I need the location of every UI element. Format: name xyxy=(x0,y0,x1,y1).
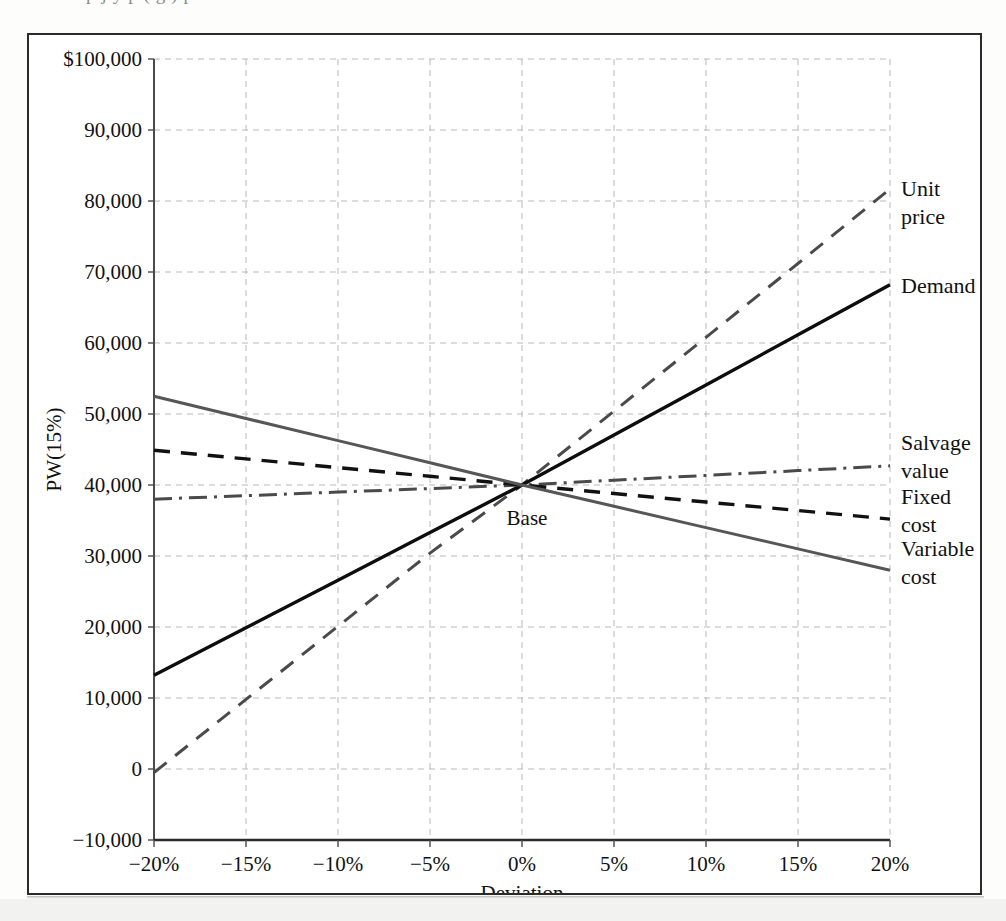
x-axis-tick-label: 15% xyxy=(779,852,818,876)
x-axis-tick-label: 20% xyxy=(871,852,910,876)
series-label-fixed-cost: Fixed xyxy=(901,484,951,509)
y-axis-tick-label: 70,000 xyxy=(84,260,142,284)
x-axis-tick-label: −20% xyxy=(129,852,179,876)
x-axis-tick-label: 5% xyxy=(600,852,628,876)
x-axis-tick-label: −10% xyxy=(313,852,363,876)
series-label-unit-price-line2: price xyxy=(901,204,945,229)
grid-lines xyxy=(154,59,890,840)
y-axis-tick-label: 50,000 xyxy=(84,402,142,426)
x-axis-tick-label: −5% xyxy=(410,852,450,876)
x-axis-tick-label: 10% xyxy=(687,852,726,876)
series-labels: UnitpriceDemandSalvagevalueFixedcostVari… xyxy=(901,176,976,589)
y-axis-tick-labels: −10,000010,00020,00030,00040,00050,00060… xyxy=(63,47,142,852)
x-axis-tick-labels: −20%−15%−10%−5%0%5%10%15%20% xyxy=(129,840,909,876)
y-axis-tick-label: 80,000 xyxy=(84,189,142,213)
series-label-variable-cost: Variable xyxy=(901,536,974,561)
series-label-unit-price: Unit xyxy=(901,176,940,201)
base-point-label: Base xyxy=(507,506,548,530)
series-label-variable-cost-line2: cost xyxy=(901,564,936,589)
x-axis-title: Deviation xyxy=(481,881,564,893)
y-axis-tick-label: −10,000 xyxy=(72,828,142,852)
page-bottom-band xyxy=(0,899,1006,921)
y-axis-tick-label: 0 xyxy=(132,757,143,781)
figure-frame: −10,000010,00020,00030,00040,00050,00060… xyxy=(27,33,982,895)
y-axis-tick-label: 20,000 xyxy=(84,615,142,639)
figure-page: p j y p ( g ) p −10,000010,00020,00030,0… xyxy=(0,0,1006,921)
y-axis-tick-label: 10,000 xyxy=(84,686,142,710)
series-label-salvage-value: Salvage xyxy=(901,430,971,455)
y-axis-tick-label: $100,000 xyxy=(63,47,142,71)
sensitivity-line-chart: −10,000010,00020,00030,00040,00050,00060… xyxy=(29,35,980,893)
x-axis-tick-label: 0% xyxy=(508,852,536,876)
y-axis-tick-label: 60,000 xyxy=(84,331,142,355)
x-axis-tick-label: −15% xyxy=(221,852,271,876)
y-axis-tick-label: 90,000 xyxy=(84,118,142,142)
truncated-caption-text: p j y p ( g ) p xyxy=(0,0,1006,16)
y-axis-tick-label: 30,000 xyxy=(84,544,142,568)
series-label-fixed-cost-line2: cost xyxy=(901,512,936,537)
y-axis-tick-label: 40,000 xyxy=(84,473,142,497)
y-axis-title: PW(15%) xyxy=(42,408,66,492)
series-label-salvage-value-line2: value xyxy=(901,458,949,483)
series-label-demand: Demand xyxy=(901,273,976,298)
